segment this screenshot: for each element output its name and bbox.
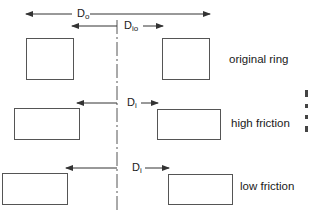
original-ring-left-section	[27, 39, 74, 80]
cropped-text-fragment	[305, 90, 308, 97]
high-friction-label: high friction	[231, 118, 290, 130]
low-friction-right-section	[169, 175, 233, 205]
cropped-text-fragment	[305, 115, 308, 119]
low-friction-label: low friction	[240, 181, 294, 193]
high-friction-right-section	[158, 110, 221, 140]
original-ring-right-section	[163, 39, 210, 80]
cropped-text-fragment	[305, 126, 308, 132]
outer-diameter-label: Do	[76, 8, 90, 21]
cropped-text-fragment	[305, 104, 308, 108]
low-friction-left-section	[3, 174, 68, 205]
low-friction-inner-diameter-label: Di	[131, 162, 143, 175]
high-friction-left-section	[15, 109, 80, 140]
original-inner-diameter-label: Dio	[123, 20, 139, 33]
original-ring-label: original ring	[229, 54, 288, 66]
high-friction-inner-diameter-label: Di	[126, 97, 138, 110]
